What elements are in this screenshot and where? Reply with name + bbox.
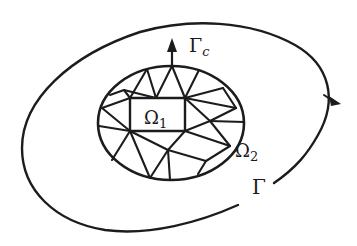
interface-normal-arrow-icon xyxy=(167,38,177,52)
gamma-c-label: Γc xyxy=(189,34,210,59)
omega1-label: Ω1 xyxy=(144,107,167,131)
domain-diagram: Γc Ω1 Ω2 Γ xyxy=(0,0,357,246)
outer-boundary-gamma xyxy=(22,23,329,231)
outer-boundary-arrow-icon xyxy=(329,96,341,106)
inner-mesh xyxy=(98,66,244,180)
omega2-label: Ω2 xyxy=(235,140,258,164)
gamma-label: Γ xyxy=(252,175,266,199)
